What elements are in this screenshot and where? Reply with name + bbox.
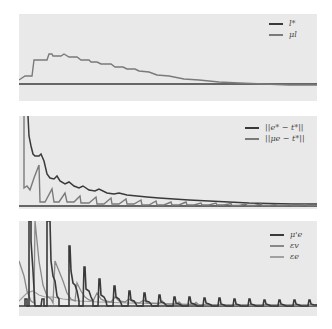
legend-swatch [270,256,284,258]
legend-swatch [270,234,284,236]
legend-label: ||μe − t*|| [265,134,305,143]
legend-swatch [245,127,259,129]
legend-item-e-star-minus-t-star: ||e* − t*|| [245,122,305,133]
legend-swatch [269,23,283,25]
legend-label: εv [290,241,299,250]
legend-item-l-star: l* [269,18,297,29]
legend-item-mu-l: μl [269,29,297,40]
legend-swatch [270,245,284,247]
legend-item-epsilon-e: εe [270,251,302,262]
series-epsilon-e [19,291,317,306]
legend-label: μl [289,30,297,39]
legend-label: l* [289,19,296,28]
legend-swatch [269,34,283,36]
legend-1: l* μl [269,18,297,40]
legend-item-mu-e-minus-t-star: ||μe − t*|| [245,133,305,144]
legend-label: εe [290,252,299,261]
legend-item-epsilon-v: εv [270,240,302,251]
legend-label: μ'e [290,230,302,239]
chart-panel-1: l* μl [19,14,317,101]
legend-2: ||e* − t*|| ||μe − t*|| [245,122,305,144]
legend-3: μ'e εv εe [270,229,302,262]
chart-panel-3: μ'e εv εe [19,221,317,316]
chart-panel-2: ||e* − t*|| ||μe − t*|| [19,116,317,209]
legend-label: ||e* − t*|| [265,123,304,132]
series-mu-l [19,54,317,85]
legend-swatch [245,138,259,140]
legend-item-mu-prime-e: μ'e [270,229,302,240]
